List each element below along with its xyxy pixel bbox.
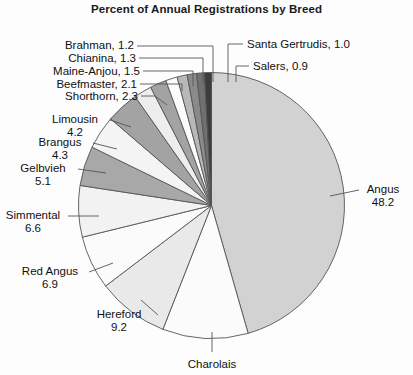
label-simmental-value: 6.6	[0, 222, 66, 235]
label-gelbvieh-name: Gelbvieh	[20, 162, 65, 174]
label-santa-gertrudis: Santa Gertrudis, 1.0	[247, 38, 350, 51]
label-maine-anjou: Maine-Anjou, 1.5	[53, 65, 140, 78]
label-red-angus: Red Angus 6.9	[15, 265, 85, 291]
label-angus-name: Angus	[367, 183, 400, 195]
label-chianina: Chianina, 1.3	[68, 52, 136, 65]
label-simmental-name: Simmental	[6, 209, 60, 221]
label-shorthorn: Shorthorn, 2.3	[65, 90, 138, 103]
label-red-angus-value: 6.9	[15, 278, 85, 291]
label-brangus-value: 4.3	[29, 149, 91, 162]
label-charolais: Charolais	[179, 358, 245, 371]
chart-page: Percent of Annual Registrations by Breed	[0, 0, 413, 375]
label-salers: Salers, 0.9	[253, 60, 308, 73]
label-gelbvieh: Gelbvieh 5.1	[11, 162, 75, 188]
label-angus: Angus 48.2	[360, 183, 406, 209]
label-hereford: Hereford 9.2	[86, 308, 152, 334]
label-hereford-value: 9.2	[86, 321, 152, 334]
label-simmental: Simmental 6.6	[0, 209, 66, 235]
label-brangus-name: Brangus	[39, 136, 82, 148]
label-hereford-name: Hereford	[97, 308, 142, 320]
label-red-angus-name: Red Angus	[22, 265, 78, 277]
pie-slice-group	[78, 73, 344, 339]
label-charolais-name: Charolais	[188, 358, 237, 370]
label-brangus: Brangus 4.3	[29, 136, 91, 162]
label-gelbvieh-value: 5.1	[11, 175, 75, 188]
label-angus-value: 48.2	[360, 196, 406, 209]
label-limousin-name: Limousin	[52, 113, 98, 125]
label-brahman: Brahman, 1.2	[65, 39, 134, 52]
